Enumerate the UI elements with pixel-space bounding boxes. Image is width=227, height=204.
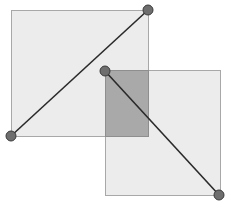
resize-handle-rect2-top-left[interactable] <box>100 66 110 76</box>
resize-handle-rect2-bottom-right[interactable] <box>214 190 224 200</box>
resize-handle-rect1-top-right[interactable] <box>143 5 153 15</box>
diagram-canvas <box>0 0 227 204</box>
overlap-region <box>106 71 149 137</box>
resize-handle-rect1-bottom-left[interactable] <box>6 131 16 141</box>
